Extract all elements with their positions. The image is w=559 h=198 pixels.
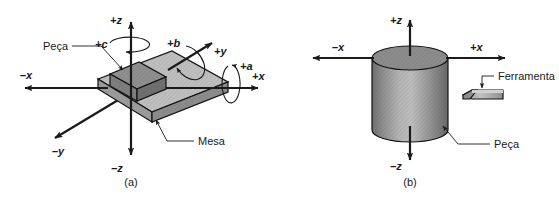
axis-label-minus-y-a: –y [52,145,65,157]
axis-label-minus-z-b: –z [390,160,402,172]
axis-label-plus-x-a: +x [252,70,265,82]
callout-label-workpiece-a: Peça [43,40,69,52]
rotation-label-a: +a [240,60,253,72]
rotation-c-arc [110,37,150,52]
axis-label-plus-z-a: +z [110,14,122,26]
axis-label-minus-x-a: –x [20,69,33,81]
panel-a: +z –z +x –x +y –y +a +b +c Peça Mesa (a) [20,14,265,188]
axis-label-plus-z-b: +z [390,14,402,26]
axis-label-minus-x-b: –x [332,41,345,53]
rotation-label-b: +b [167,37,180,49]
axis-label-plus-y-a: +y [214,45,227,57]
rotation-label-c: +c [95,38,108,50]
callout-label-table-a: Mesa [198,135,226,147]
callout-leader-tool-b [482,76,494,88]
axis-label-plus-x-b: +x [470,41,483,53]
panel-b: +z –z +x –x Ferramenta Peça (b) [313,14,556,188]
panel-b-caption: (b) [403,176,416,188]
cnc-axis-convention-figure: +z –z +x –x +y –y +a +b +c Peça Mesa (a) [0,0,559,198]
axis-label-minus-z-a: –z [111,162,123,174]
callout-leader-table-a [156,120,194,141]
callout-leader-workpiece-b [443,126,490,144]
callout-label-tool-b: Ferramenta [498,70,556,82]
panel-a-caption: (a) [124,176,137,188]
callout-label-workpiece-b: Peça [494,138,520,150]
cutting-tool [463,90,503,99]
